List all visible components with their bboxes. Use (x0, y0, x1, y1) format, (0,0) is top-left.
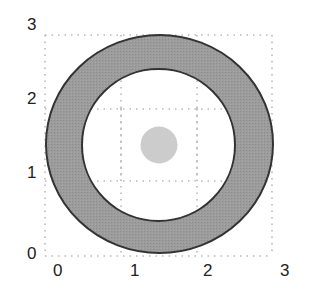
x-tick-2: 2 (203, 261, 212, 280)
y-tick-0: 0 (27, 244, 36, 263)
center-dot (141, 127, 178, 164)
annulus-diagram: 3 2 1 0 0 1 2 3 (0, 0, 309, 297)
x-tick-0: 0 (53, 261, 62, 280)
x-tick-1: 1 (130, 261, 139, 280)
x-tick-3: 3 (280, 261, 289, 280)
x-axis-labels: 0 1 2 3 (53, 261, 289, 280)
y-axis-labels: 3 2 1 0 (27, 15, 36, 263)
y-tick-1: 1 (27, 163, 36, 182)
y-tick-3: 3 (27, 15, 36, 34)
y-tick-2: 2 (27, 89, 36, 108)
